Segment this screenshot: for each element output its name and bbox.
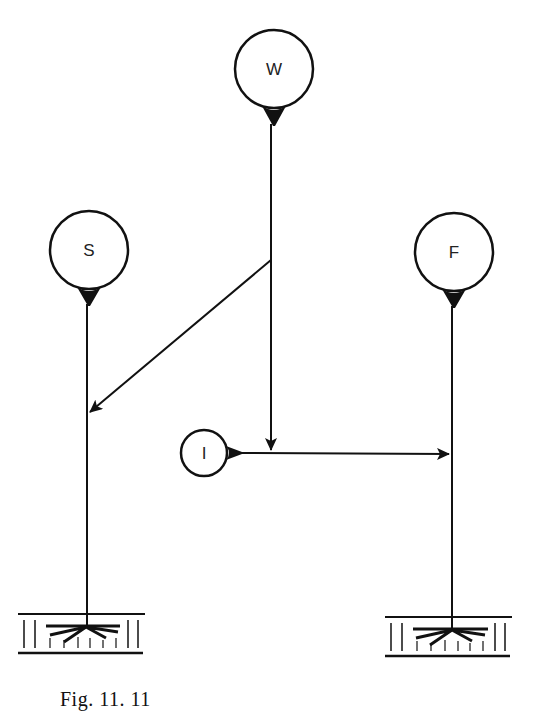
neuron-i: I <box>181 430 242 476</box>
axon-i-to-f <box>240 453 449 454</box>
node-label-i: I <box>202 444 207 463</box>
figure-caption: Fig. 11. 11 <box>60 688 520 711</box>
neuron-f: F <box>415 213 493 308</box>
muscle-s <box>18 614 145 653</box>
node-label-w: W <box>266 60 282 79</box>
neuron-w: W <box>235 30 313 126</box>
neuron-s: S <box>50 211 128 306</box>
muscle-f <box>385 617 512 656</box>
axon-w-to-s <box>90 260 271 412</box>
node-label-s: S <box>83 241 94 260</box>
node-label-f: F <box>449 243 459 262</box>
